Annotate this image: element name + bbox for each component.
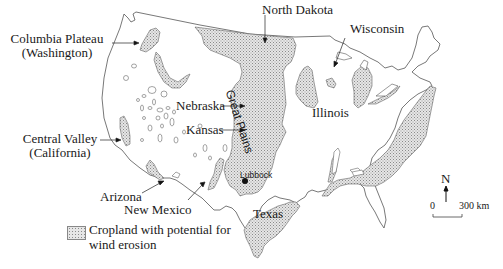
label-wisconsin: Wisconsin	[350, 22, 404, 36]
label-columbia-plateau-line2: (Washington)	[2, 46, 112, 60]
label-north-dakota: North Dakota	[262, 3, 333, 17]
scale-bar	[433, 214, 462, 217]
legend-label: Cropland with potential for wind erosion	[89, 222, 231, 252]
map-figure: Columbia Plateau (Washington) North Dako…	[0, 0, 503, 269]
scale-end-label: 300 km	[459, 199, 489, 213]
label-new-mexico: New Mexico	[124, 203, 192, 217]
label-nebraska: Nebraska	[176, 99, 225, 113]
legend-swatch	[67, 226, 86, 240]
label-columbia-plateau-line1: Columbia Plateau	[2, 32, 112, 46]
north-arrow-icon	[444, 186, 448, 202]
legend-label-line2: wind erosion	[89, 237, 231, 252]
label-illinois: Illinois	[312, 106, 349, 120]
label-central-valley: Central Valley (California)	[20, 132, 100, 160]
label-texas: Texas	[253, 207, 283, 221]
scale-start-label: 0	[430, 199, 435, 213]
label-columbia-plateau: Columbia Plateau (Washington)	[2, 32, 112, 60]
label-central-valley-line2: (California)	[20, 146, 100, 160]
legend-label-line1: Cropland with potential for	[89, 222, 231, 237]
label-lubbock: Lubbock	[240, 168, 272, 182]
label-kansas: Kansas	[186, 123, 224, 137]
label-central-valley-line1: Central Valley	[20, 132, 100, 146]
compass-north-label: N	[441, 172, 450, 186]
